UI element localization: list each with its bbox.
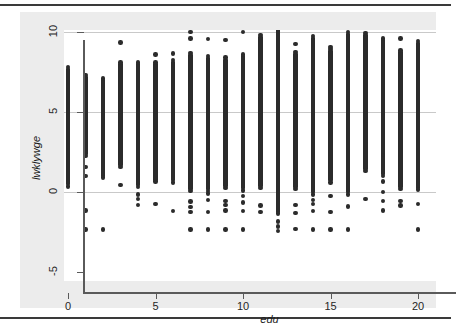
- x-tick-label-20: 20: [403, 300, 433, 312]
- data-column-edu-11: [258, 35, 262, 188]
- data-column-edu-10: [241, 54, 245, 190]
- y-tick-label-5: 5: [47, 100, 59, 122]
- data-point-edu-3-min: [118, 165, 122, 169]
- data-column-edu-6: [171, 60, 175, 182]
- data-point-edu-9-out-3: [223, 208, 227, 212]
- y-tick-label-0: 0: [47, 180, 59, 202]
- data-column-edu-15: [328, 49, 332, 183]
- data-point-edu-9-min: [223, 186, 227, 190]
- data-point-edu-11-max: [258, 33, 262, 37]
- data-point-edu-7-min: [188, 189, 192, 193]
- data-column-edu-4: [136, 62, 140, 187]
- data-point-edu-4-out-0: [136, 192, 140, 196]
- data-point-edu-13-out-0: [293, 42, 297, 46]
- y-axis-line: [83, 40, 85, 294]
- y-tick-0: [77, 192, 84, 193]
- data-point-edu-14-out-1: [311, 202, 315, 206]
- data-point-edu-2-min: [101, 175, 105, 179]
- data-point-edu-9-out-0: [223, 38, 227, 42]
- data-point-edu-11-out-0: [258, 203, 262, 207]
- data-column-edu-5: [153, 62, 157, 181]
- data-point-edu-20-min: [416, 187, 420, 191]
- data-point-edu-8-out-0: [206, 37, 210, 41]
- data-point-edu-4-min: [136, 185, 140, 189]
- data-point-edu-2-max: [101, 76, 105, 80]
- data-point-edu-12-out-2: [276, 229, 280, 233]
- y-tick-5: [77, 112, 84, 113]
- x-tick-20: [418, 293, 419, 299]
- data-point-edu-10-min: [241, 188, 245, 192]
- data-point-edu-10-out-2: [241, 200, 245, 204]
- data-point-edu-19-out-0: [398, 36, 402, 40]
- data-point-edu-3-out-1: [118, 183, 122, 187]
- data-point-edu-16-min: [346, 192, 350, 196]
- data-column-edu-9: [223, 58, 227, 188]
- data-point-edu-10-out-3: [241, 209, 245, 213]
- data-column-edu-13: [293, 52, 297, 189]
- data-point-edu-15-out-2: [328, 194, 332, 198]
- figure-panel: -50510 05101520 lwklywge edu: [20, 12, 436, 308]
- data-point-edu-18-min: [381, 174, 385, 178]
- data-point-edu-12-min: [276, 211, 280, 215]
- data-point-edu-18-max: [381, 36, 385, 40]
- data-point-edu-20-out-1: [416, 202, 420, 206]
- page-rule-top: [0, 4, 451, 6]
- data-column-edu-12: [276, 30, 280, 214]
- data-point-edu-12-out-1: [276, 224, 280, 228]
- data-point-edu-5-out-0: [153, 52, 157, 56]
- data-point-edu-13-out-1: [293, 203, 297, 207]
- x-tick-label-0: 0: [53, 300, 83, 312]
- data-point-edu-7-out-5: [188, 227, 192, 231]
- x-tick-15: [331, 293, 332, 299]
- data-point-edu-17-out-0: [363, 197, 367, 201]
- data-point-edu-7-out-4: [188, 210, 192, 214]
- data-point-edu-15-out-1: [328, 45, 332, 49]
- data-point-edu-19-out-2: [398, 203, 402, 207]
- data-point-edu-9-max: [223, 55, 227, 59]
- data-point-edu-19-min: [398, 187, 402, 191]
- data-point-edu-7-max: [188, 51, 192, 55]
- x-tick-0: [68, 293, 69, 299]
- data-point-edu-17-min: [363, 169, 367, 173]
- data-point-edu-11-out-1: [258, 210, 262, 214]
- y-tick-label--5: -5: [47, 260, 59, 282]
- data-point-edu-5-max: [153, 60, 157, 64]
- x-tick-label-15: 15: [316, 300, 346, 312]
- data-point-edu-15-out-3: [328, 210, 332, 214]
- data-column-edu-3: [118, 62, 122, 167]
- data-point-edu-14-min: [311, 192, 315, 196]
- y-tick-label-10: 10: [47, 20, 59, 42]
- data-point-edu-15-out-4: [328, 227, 332, 231]
- data-point-edu-3-out-0: [118, 40, 122, 44]
- data-point-edu-0-min: [66, 184, 70, 188]
- data-point-edu-12-out-0: [276, 219, 280, 223]
- data-point-edu-3-max: [118, 60, 122, 64]
- data-column-edu-7: [188, 53, 192, 191]
- data-point-edu-18-out-4: [381, 208, 385, 212]
- data-point-edu-5-min: [153, 179, 157, 183]
- x-axis-title: edu: [83, 313, 456, 325]
- data-point-edu-11-min: [258, 186, 262, 190]
- data-point-edu-18-out-1: [381, 179, 385, 183]
- data-point-edu-9-out-2: [223, 203, 227, 207]
- data-point-edu-16-out-2: [346, 227, 350, 231]
- data-point-edu-15-min: [328, 180, 332, 184]
- data-column-edu-20: [416, 41, 420, 190]
- x-axis-line: [83, 292, 456, 294]
- data-point-edu-10-out-1: [241, 194, 245, 198]
- data-point-edu-7-out-2: [188, 199, 192, 203]
- data-point-edu-8-out-3: [206, 210, 210, 214]
- x-tick-5: [156, 293, 157, 299]
- gridline-y-10: [64, 32, 436, 33]
- data-point-edu-19-out-1: [398, 199, 402, 203]
- data-point-edu-7-out-0: [188, 30, 192, 34]
- data-point-edu-10-max: [241, 52, 245, 56]
- data-point-edu-6-out-0: [171, 51, 175, 55]
- data-point-edu-19-max: [398, 48, 402, 52]
- data-point-edu-10-out-4: [241, 227, 245, 231]
- data-column-edu-8: [206, 56, 210, 191]
- data-point-edu-8-out-4: [206, 227, 210, 231]
- data-point-edu-14-out-3: [311, 227, 315, 231]
- y-tick--5: [77, 272, 84, 273]
- data-column-edu-2: [101, 78, 105, 177]
